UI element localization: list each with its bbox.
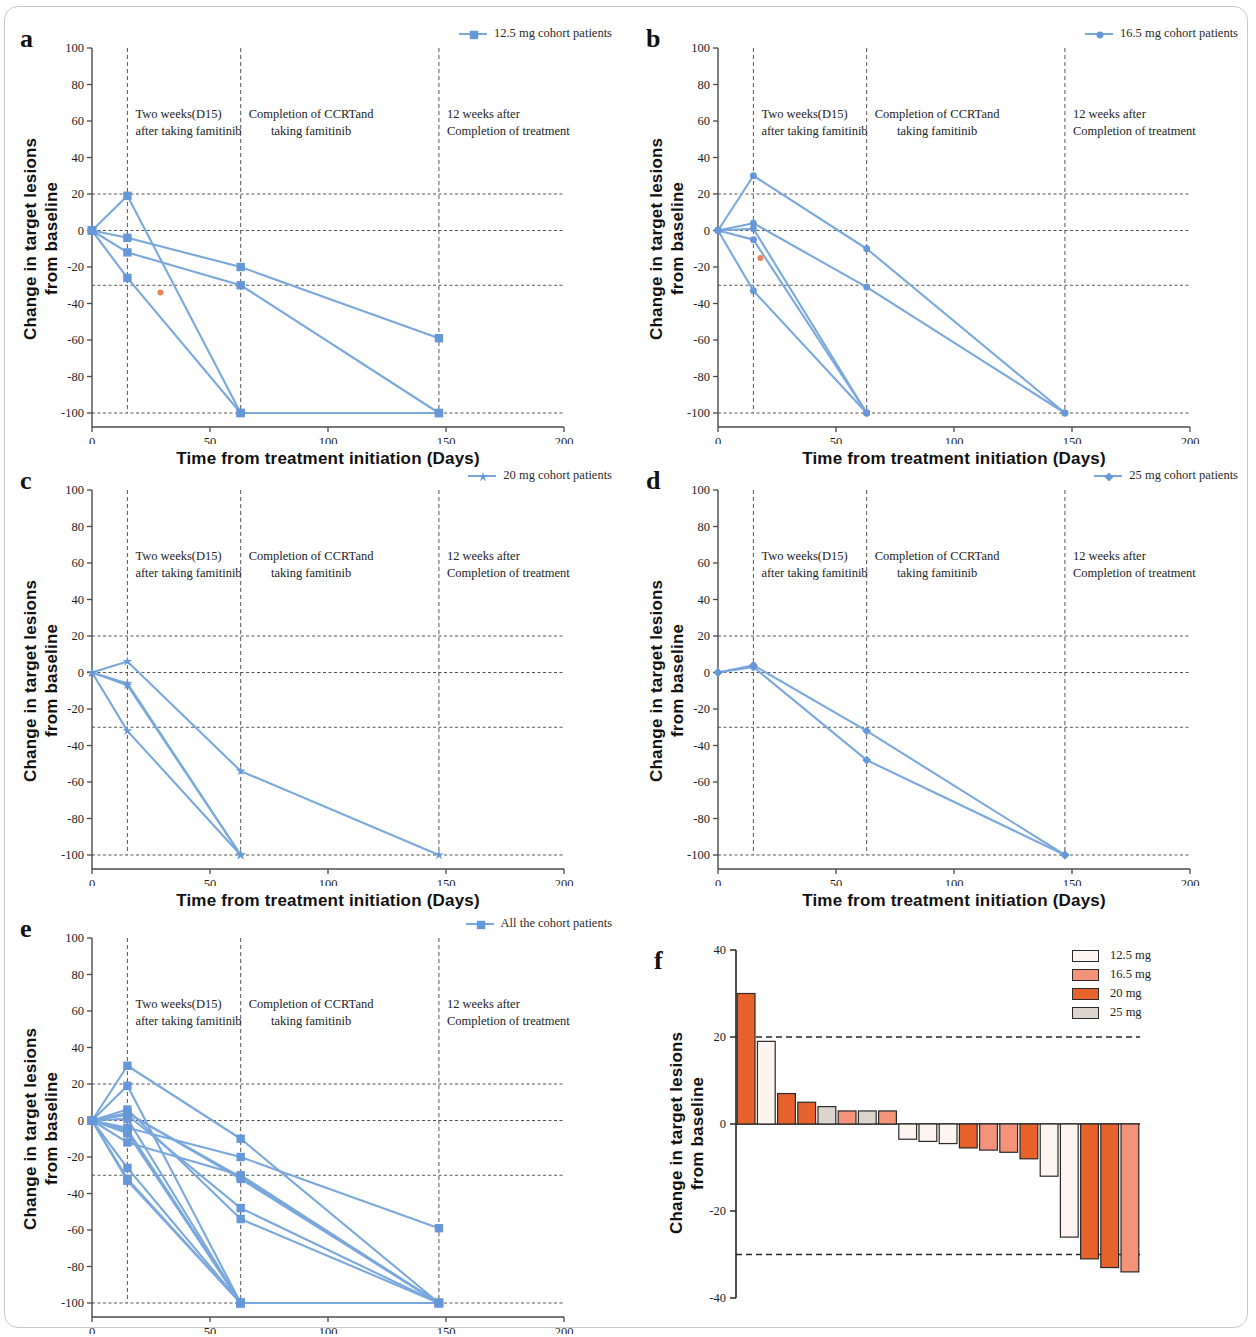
annotation-1: Two weeks(D15)after taking famitinib bbox=[135, 996, 241, 1030]
annotation-2: Completion of CCRTandtaking famitinib bbox=[249, 548, 374, 582]
svg-text:-100: -100 bbox=[687, 848, 710, 862]
waterfall-y-axis-title-line1: Change in target lesions bbox=[666, 1008, 687, 1258]
legend-e: All the cohort patients bbox=[466, 916, 612, 931]
y-axis-title-line1: Change in target lesions bbox=[20, 986, 41, 1271]
svg-text:0: 0 bbox=[704, 666, 710, 680]
legend-c: 20 mg cohort patients bbox=[468, 468, 612, 483]
annotation-3-line2: Completion of treatment bbox=[1073, 123, 1196, 140]
y-axis-title-line1: Change in target lesions bbox=[646, 538, 667, 823]
svg-text:0: 0 bbox=[89, 1325, 95, 1334]
svg-text:-80: -80 bbox=[67, 812, 84, 826]
plot-area-a: -100-80-60-40-20020406080100050100150200 bbox=[14, 8, 630, 444]
annotation-2-line2: taking famitinib bbox=[249, 565, 374, 582]
svg-text:-80: -80 bbox=[693, 812, 710, 826]
svg-text:-80: -80 bbox=[693, 370, 710, 384]
svg-text:-20: -20 bbox=[693, 702, 710, 716]
svg-text:50: 50 bbox=[830, 877, 843, 886]
svg-text:60: 60 bbox=[698, 556, 711, 570]
panel-letter-f: f bbox=[654, 946, 663, 976]
annotation-3: 12 weeks afterCompletion of treatment bbox=[447, 106, 570, 140]
annotation-1-line1: Two weeks(D15) bbox=[761, 548, 867, 565]
svg-text:100: 100 bbox=[65, 483, 84, 497]
svg-text:100: 100 bbox=[65, 931, 84, 945]
annotation-1: Two weeks(D15)after taking famitinib bbox=[135, 106, 241, 140]
svg-text:80: 80 bbox=[72, 520, 85, 534]
legend-marker-circle-icon bbox=[1085, 28, 1113, 40]
annotation-3-line2: Completion of treatment bbox=[447, 123, 570, 140]
waterfall-legend-item: 12.5 mg bbox=[1072, 946, 1151, 965]
plot-area-b: -100-80-60-40-20020406080100050100150200 bbox=[640, 8, 1256, 444]
svg-text:60: 60 bbox=[698, 114, 711, 128]
svg-text:50: 50 bbox=[830, 435, 843, 444]
svg-text:80: 80 bbox=[698, 520, 711, 534]
waterfall-legend: 12.5 mg16.5 mg20 mg25 mg bbox=[1072, 946, 1151, 1022]
waterfall-legend-item: 25 mg bbox=[1072, 1003, 1151, 1022]
svg-text:0: 0 bbox=[704, 224, 710, 238]
annotation-2: Completion of CCRTandtaking famitinib bbox=[875, 548, 1000, 582]
annotation-2-line1: Completion of CCRTand bbox=[249, 548, 374, 565]
plot-area-d: -100-80-60-40-20020406080100050100150200 bbox=[640, 450, 1256, 886]
annotation-2-line2: taking famitinib bbox=[875, 565, 1000, 582]
svg-text:-20: -20 bbox=[709, 1204, 726, 1218]
svg-text:80: 80 bbox=[72, 968, 85, 982]
panel-f: -40-2002040f12.5 mg16.5 mg20 mg25 mgChan… bbox=[640, 898, 1256, 1334]
y-axis-title-line1: Change in target lesions bbox=[646, 96, 667, 381]
y-axis-title-line2: from baseline bbox=[41, 96, 62, 381]
legend-label: All the cohort patients bbox=[501, 916, 612, 931]
legend-a: 12.5 mg cohort patients bbox=[459, 26, 612, 41]
y-axis-title: Change in target lesionsfrom baseline bbox=[646, 96, 689, 381]
legend-marker-square-icon bbox=[466, 918, 494, 930]
annotation-3-line2: Completion of treatment bbox=[447, 1013, 570, 1030]
svg-text:-60: -60 bbox=[693, 775, 710, 789]
svg-text:20: 20 bbox=[72, 187, 85, 201]
svg-text:40: 40 bbox=[714, 943, 727, 957]
y-axis-title-line1: Change in target lesions bbox=[20, 96, 41, 381]
svg-text:-40: -40 bbox=[67, 1187, 84, 1201]
annotation-1-line1: Two weeks(D15) bbox=[135, 548, 241, 565]
legend-d: 25 mg cohort patients bbox=[1094, 468, 1238, 483]
svg-text:-80: -80 bbox=[67, 370, 84, 384]
svg-text:-100: -100 bbox=[61, 848, 84, 862]
svg-text:40: 40 bbox=[72, 1041, 85, 1055]
svg-text:-60: -60 bbox=[693, 333, 710, 347]
plot-area-c: -100-80-60-40-20020406080100050100150200 bbox=[14, 450, 630, 886]
svg-text:-40: -40 bbox=[693, 739, 710, 753]
panel-e: -100-80-60-40-20020406080100050100150200… bbox=[14, 898, 630, 1334]
panel-letter-d: d bbox=[646, 466, 660, 496]
svg-text:0: 0 bbox=[78, 666, 84, 680]
svg-text:200: 200 bbox=[555, 435, 574, 444]
svg-text:80: 80 bbox=[72, 78, 85, 92]
svg-text:50: 50 bbox=[204, 877, 217, 886]
legend-label: 16.5 mg cohort patients bbox=[1120, 26, 1238, 41]
svg-text:100: 100 bbox=[691, 41, 710, 55]
annotation-3: 12 weeks afterCompletion of treatment bbox=[447, 548, 570, 582]
svg-text:100: 100 bbox=[319, 435, 338, 444]
annotation-2: Completion of CCRTandtaking famitinib bbox=[249, 996, 374, 1030]
annotation-1-line2: after taking famitinib bbox=[135, 565, 241, 582]
plot-area-e: -100-80-60-40-20020406080100050100150200 bbox=[14, 898, 630, 1334]
svg-text:200: 200 bbox=[1181, 877, 1200, 886]
waterfall-legend-swatch bbox=[1072, 969, 1099, 981]
annotation-3: 12 weeks afterCompletion of treatment bbox=[447, 996, 570, 1030]
svg-text:20: 20 bbox=[698, 629, 711, 643]
svg-text:-100: -100 bbox=[687, 406, 710, 420]
annotation-1-line1: Two weeks(D15) bbox=[135, 996, 241, 1013]
waterfall-legend-label: 20 mg bbox=[1110, 986, 1142, 1001]
annotation-2-line2: taking famitinib bbox=[249, 123, 374, 140]
panel-letter-c: c bbox=[20, 466, 32, 496]
svg-text:150: 150 bbox=[1063, 877, 1082, 886]
waterfall-legend-label: 16.5 mg bbox=[1110, 967, 1151, 982]
y-axis-title-line2: from baseline bbox=[667, 96, 688, 381]
legend-marker-diamond-icon bbox=[1094, 470, 1122, 482]
panel-a: -100-80-60-40-20020406080100050100150200… bbox=[14, 8, 630, 444]
svg-text:50: 50 bbox=[204, 1325, 217, 1334]
svg-text:100: 100 bbox=[319, 1325, 338, 1334]
svg-text:-20: -20 bbox=[693, 260, 710, 274]
legend-marker-square-icon bbox=[459, 28, 487, 40]
waterfall-y-axis-title: Change in target lesionsfrom baseline bbox=[666, 1008, 709, 1258]
panel-d: -100-80-60-40-20020406080100050100150200… bbox=[640, 450, 1256, 886]
waterfall-legend-swatch bbox=[1072, 1007, 1099, 1019]
svg-text:-80: -80 bbox=[67, 1260, 84, 1274]
y-axis-title: Change in target lesionsfrom baseline bbox=[20, 986, 63, 1271]
annotation-3-line1: 12 weeks after bbox=[447, 996, 570, 1013]
